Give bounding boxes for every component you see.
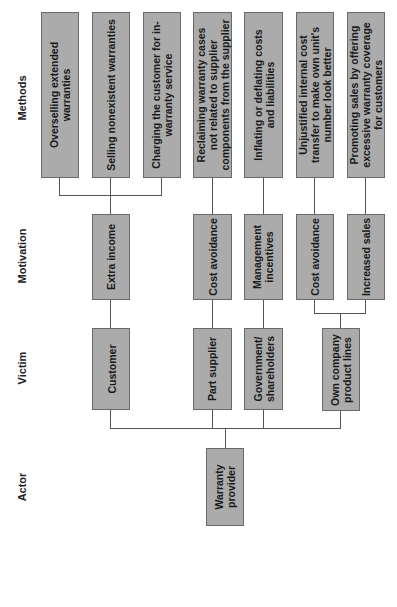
method-box: Selling nonexistent warranties — [92, 12, 130, 178]
connector — [161, 177, 162, 195]
connector — [314, 177, 315, 214]
connector — [263, 177, 264, 214]
method-label: Overselling extended warranties — [48, 42, 72, 148]
motivation-label: Extra income — [105, 224, 117, 290]
connector — [110, 299, 111, 328]
method-label: Selling nonexistent warranties — [105, 19, 117, 171]
column-label-actor: Actor — [16, 473, 28, 502]
motivation-label: Management incentives — [252, 225, 276, 289]
column-label-methods: Methods — [16, 75, 28, 120]
victim-label: Own company product lines — [329, 334, 353, 406]
method-box: Charging the customer for in- warranty s… — [143, 12, 181, 178]
method-box: Overselling extended warranties — [41, 12, 79, 178]
connector — [340, 313, 341, 328]
connector — [314, 299, 315, 313]
method-label: Unjustified internal cost transfer to ma… — [297, 27, 333, 163]
method-box: Unjustified internal cost transfer to ma… — [296, 12, 334, 178]
motivation-box: Extra income — [92, 214, 130, 300]
victim-label: Part supplier — [207, 337, 219, 401]
connector — [263, 409, 264, 428]
connector — [212, 177, 213, 214]
connector — [340, 410, 341, 428]
connector — [263, 299, 264, 328]
method-label: Promoting sales by offering excessive wa… — [348, 22, 384, 167]
connector — [212, 299, 213, 328]
motivation-box: Cost avoidance — [193, 214, 232, 300]
method-box: Inflating or deflating costs and liabili… — [244, 12, 283, 178]
method-label: Reclaiming warranty cases not related to… — [195, 19, 231, 170]
actor-box: Warranty provider — [206, 448, 244, 526]
connector — [110, 177, 111, 214]
motivation-box: Increased sales — [347, 214, 385, 300]
column-label-victim: Victim — [16, 352, 28, 385]
motivation-label: Cost avoidance — [309, 218, 321, 296]
motivation-box: Cost avoidance — [296, 214, 334, 300]
victim-box: Part supplier — [193, 328, 232, 410]
victim-box: Own company product lines — [322, 328, 360, 411]
victim-box: Government/ shareholders — [244, 328, 283, 410]
connector — [59, 177, 60, 195]
motivation-label: Cost avoidance — [207, 218, 219, 296]
connector — [212, 409, 213, 428]
connector — [365, 299, 366, 313]
connector — [225, 428, 226, 448]
method-label: Inflating or deflating costs and liabili… — [252, 29, 276, 160]
victim-label: Government/ shareholders — [252, 336, 276, 402]
motivation-label: Increased sales — [360, 218, 372, 296]
connector — [365, 177, 366, 214]
victim-label: Customer — [105, 344, 117, 393]
connector — [110, 409, 111, 428]
motivation-box: Management incentives — [244, 214, 283, 300]
actor-label: Warranty provider — [213, 464, 237, 509]
victim-box: Customer — [92, 328, 130, 410]
method-label: Charging the customer for in- warranty s… — [150, 21, 174, 169]
method-box: Reclaiming warranty cases not related to… — [193, 12, 232, 178]
column-label-motivation: Motivation — [16, 229, 28, 284]
method-box: Promoting sales by offering excessive wa… — [347, 12, 385, 178]
